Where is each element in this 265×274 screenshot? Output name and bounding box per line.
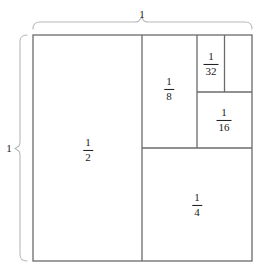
left-dimension-label: 1 — [6, 143, 12, 154]
region-label-half: 1 2 — [83, 137, 93, 163]
fraction-square-figure: 1 1 1 2 1 4 1 8 1 16 1 32 — [0, 0, 265, 274]
eighth-denominator: 8 — [164, 90, 174, 103]
left-brace — [15, 35, 27, 261]
region-label-eighth: 1 8 — [164, 76, 174, 102]
quarter-numerator: 1 — [192, 192, 202, 206]
region-label-quarter: 1 4 — [192, 192, 202, 218]
thirtysecond-denominator: 32 — [204, 65, 219, 78]
region-label-thirtysecond: 1 32 — [204, 51, 219, 77]
region-label-sixteenth: 1 16 — [217, 107, 232, 133]
eighth-numerator: 1 — [164, 76, 174, 90]
half-denominator: 2 — [83, 151, 93, 164]
top-dimension-label: 1 — [139, 9, 145, 20]
diagram-canvas — [0, 0, 265, 274]
half-numerator: 1 — [83, 137, 93, 151]
sixteenth-denominator: 16 — [217, 121, 232, 134]
sixteenth-numerator: 1 — [217, 107, 232, 121]
quarter-denominator: 4 — [192, 206, 202, 219]
thirtysecond-numerator: 1 — [204, 51, 219, 65]
